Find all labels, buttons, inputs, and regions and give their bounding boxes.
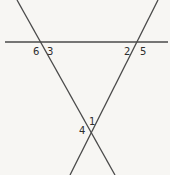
- angle-label-1: 1: [89, 117, 95, 127]
- right-transversal: [70, 0, 158, 175]
- angle-label-6: 6: [33, 47, 39, 57]
- angle-label-5: 5: [140, 47, 146, 57]
- left-transversal: [17, 0, 115, 175]
- angle-label-2: 2: [124, 47, 130, 57]
- diagram-canvas: [0, 0, 170, 175]
- angle-label-4: 4: [79, 126, 85, 136]
- geometry-diagram: 6 3 2 5 1 4: [0, 0, 170, 175]
- angle-label-3: 3: [47, 47, 53, 57]
